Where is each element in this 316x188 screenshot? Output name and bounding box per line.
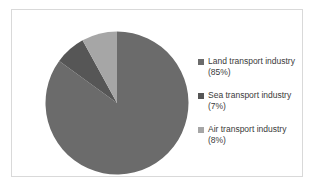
legend-value: (85%) [208, 67, 310, 78]
pie-slice-group [46, 32, 189, 175]
legend-entry[interactable]: Air transport industry(8%) [198, 124, 310, 146]
legend-label: Land transport industry [208, 56, 295, 67]
chart-screenshot: Land transport industry(85%)Sea transpor… [0, 0, 316, 188]
legend-value: (7%) [208, 101, 310, 112]
square-marker-icon [198, 93, 204, 99]
legend-entry[interactable]: Sea transport industry(7%) [198, 90, 310, 112]
legend-entry-row: Sea transport industry [198, 90, 310, 101]
legend-entry-row: Air transport industry [198, 124, 310, 135]
square-marker-icon [198, 127, 204, 133]
legend-label: Air transport industry [208, 124, 286, 135]
legend-entry-row: Land transport industry [198, 56, 310, 67]
chart-legend: Land transport industry(85%)Sea transpor… [198, 56, 310, 158]
square-marker-icon [198, 59, 204, 65]
chart-frame: Land transport industry(85%)Sea transpor… [11, 9, 303, 177]
legend-entry[interactable]: Land transport industry(85%) [198, 56, 310, 78]
pie-chart-svg [45, 31, 189, 175]
legend-label: Sea transport industry [208, 90, 291, 101]
pie-chart [45, 31, 189, 175]
legend-value: (8%) [208, 135, 310, 146]
